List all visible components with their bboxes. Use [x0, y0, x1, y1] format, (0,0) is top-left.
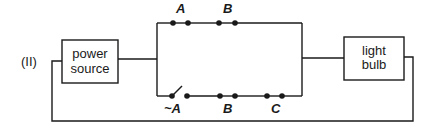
light-bulb-label-line2: bulb: [362, 57, 387, 72]
power-source-label-line2: source: [70, 61, 109, 76]
switch-label: B: [223, 1, 232, 16]
switch-notA-bottom: ~A: [164, 86, 190, 116]
light-bulb-label-line1: light: [362, 43, 386, 58]
switch-C-bottom: C: [264, 93, 285, 116]
switch-B-bottom: B: [217, 93, 238, 116]
top-branch: A B: [157, 1, 302, 26]
circuit-diagram: (II) power source A B: [0, 0, 435, 128]
switch-label: B: [223, 101, 232, 116]
power-source: power source: [62, 40, 118, 83]
switch-label: C: [271, 101, 281, 116]
figure-label: (II): [21, 54, 37, 69]
power-source-label-line1: power: [72, 46, 108, 61]
switch-B-top: B: [216, 1, 238, 26]
switch-label: A: [175, 1, 185, 16]
switch-A-top: A: [170, 1, 191, 26]
light-bulb: light bulb: [344, 37, 404, 80]
switch-label: ~A: [164, 101, 181, 116]
bottom-branch: ~A B C: [157, 86, 302, 116]
